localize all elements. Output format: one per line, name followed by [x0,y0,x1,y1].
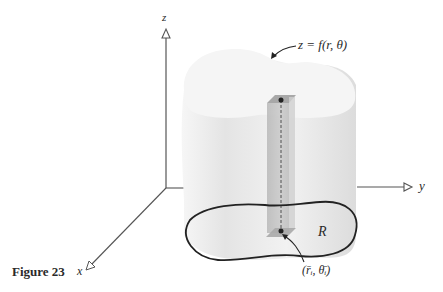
column [266,95,296,237]
surface-label: z = f(r, θ) [298,37,347,53]
figure: z y x z = f(r, θ) R (r̄ᵢ, θ̄ᵢ) Figure 23 [0,0,443,292]
z-axis-label: z [162,11,166,23]
figure-caption: Figure 23 [12,264,65,280]
x-axis [86,188,166,270]
z-axis-arrow-icon [162,29,170,38]
y-axis [357,183,412,191]
figure-graphic [0,0,443,292]
region-label: R [318,224,327,240]
x-axis-label: x [77,264,82,279]
surface-label-arrow-icon [271,46,296,59]
y-axis-label: y [419,178,425,194]
y-axis-arrow-icon [404,183,412,191]
z-axis [162,29,170,188]
sample-point-label: (r̄ᵢ, θ̄ᵢ) [302,263,330,278]
